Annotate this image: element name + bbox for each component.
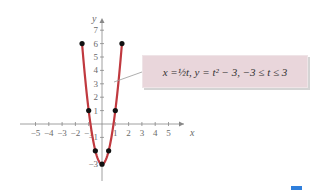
x-tick-label: −3 [57,128,67,138]
x-tick-label: −2 [71,128,81,138]
blue-marker [291,186,302,190]
x-tick-label: −4 [44,128,54,138]
data-point [113,108,118,113]
equation-callout: x = ½ t, y = t² − 3, −3 ≤ t ≤ 3 [142,55,308,88]
callout-x-eq: x = [163,66,178,78]
y-tick-label: 6 [94,39,99,49]
data-point [93,148,98,153]
x-tick-label: −5 [31,128,41,138]
y-tick-label: 3 [94,79,99,89]
y-tick-label: 1 [94,106,99,116]
data-point [119,41,124,46]
data-point [79,41,84,46]
x-tick-label: 4 [153,128,158,138]
callout-rest: t, y = t² − 3, −3 ≤ t ≤ 3 [186,66,287,78]
y-tick-label: 2 [94,92,99,102]
y-axis-label: y [91,13,97,24]
data-point [106,148,111,153]
x-axis-label: x [189,127,195,138]
y-tick-label: −3 [88,159,98,169]
y-tick-label: 5 [94,52,99,62]
y-axis-arrow-icon [100,18,105,23]
x-tick-label: 2 [126,128,131,138]
x-axis-arrow-icon [179,122,184,127]
data-point [86,108,91,113]
callout-half: ½ [178,66,186,78]
x-tick-label: 5 [166,128,171,138]
x-tick-label: 3 [140,128,145,138]
y-tick-label: 7 [94,25,99,35]
data-point [99,162,104,167]
parametric-plot: −5−4−3−2−1123457654321−1−3xy [0,0,316,191]
y-tick-label: 4 [94,65,99,75]
